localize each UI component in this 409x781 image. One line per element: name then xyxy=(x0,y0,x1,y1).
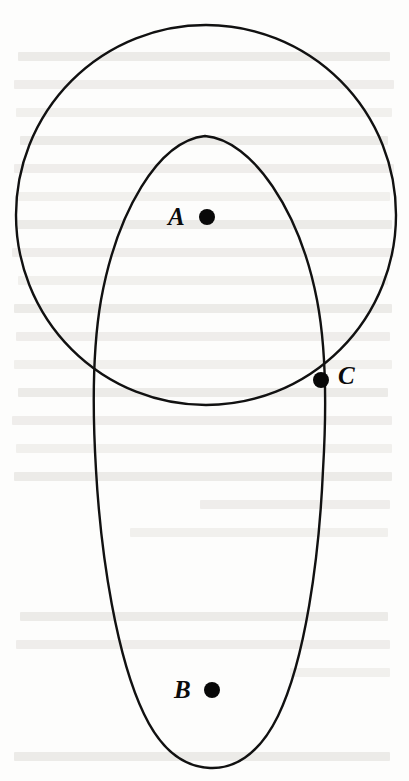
oval-curve xyxy=(94,136,325,768)
geometry-figure xyxy=(0,0,409,781)
point-c-label: C xyxy=(338,363,355,388)
point-b-label: B xyxy=(174,677,191,702)
point-a-dot xyxy=(199,209,215,225)
diagram-page: A B C xyxy=(0,0,409,781)
point-c-dot xyxy=(313,372,329,388)
point-a-label: A xyxy=(168,204,185,229)
point-b-dot xyxy=(204,682,220,698)
